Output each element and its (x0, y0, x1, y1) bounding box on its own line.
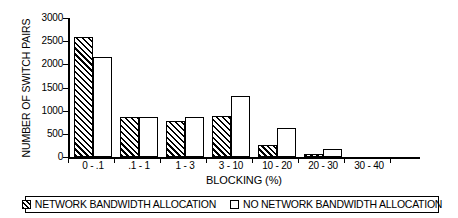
x-axis-tick-mark (206, 159, 207, 163)
y-axis-tick-label: 0 (58, 152, 63, 162)
bar-group (258, 18, 296, 157)
hatched-square-icon (22, 200, 31, 209)
bar (323, 149, 342, 157)
y-axis-tick-label: 2500 (42, 36, 63, 46)
bar-group (166, 18, 204, 157)
x-axis-title: BLOCKING (%) (68, 174, 420, 187)
x-axis-tick-mark (390, 159, 391, 163)
legend-label: NO NETWORK BANDWIDTH ALLOCATION (243, 199, 442, 210)
bar (120, 117, 139, 157)
y-axis-tick-mark (63, 18, 69, 19)
y-axis-tick-mark (63, 111, 69, 112)
bar (212, 116, 231, 157)
bar (139, 117, 158, 157)
y-axis-tick-label: 3000 (42, 13, 63, 23)
bar-group (304, 18, 342, 157)
y-axis-tick-mark (63, 88, 69, 89)
bar-chart-figure: NUMBER OF SWITCH PAIRS 05001000150020002… (0, 0, 458, 218)
x-axis-tick-mark (298, 159, 299, 163)
x-axis-tick-mark (68, 159, 69, 163)
x-axis-category-label: 10 - 20 (262, 160, 292, 171)
y-axis-title: NUMBER OF SWITCH PAIRS (18, 18, 34, 158)
y-axis-tick-label: 1000 (42, 106, 63, 116)
bar (231, 96, 250, 157)
legend-label: NETWORK BANDWIDTH ALLOCATION (35, 199, 216, 210)
x-axis-category-label: 20 - 30 (308, 160, 338, 171)
plot-area: 050010001500200025003000 (68, 18, 420, 158)
bar (93, 57, 112, 157)
x-axis-tick-mark (252, 159, 253, 163)
x-axis-category-label: 0 - .1 (82, 160, 104, 171)
y-axis-tick-label: 2000 (42, 59, 63, 69)
x-axis-tick-mark (160, 159, 161, 163)
chart-legend: NETWORK BANDWIDTH ALLOCATIONNO NETWORK B… (25, 196, 439, 213)
bar-group (74, 18, 112, 157)
y-axis-tick-mark (63, 64, 69, 65)
y-axis-tick-label: 1500 (42, 83, 63, 93)
bar-group (350, 18, 388, 157)
bar-group (212, 18, 250, 157)
bar (304, 154, 323, 157)
legend-entry: NO NETWORK BANDWIDTH ALLOCATION (230, 199, 442, 210)
bar (185, 117, 204, 157)
y-axis-tick-mark (63, 157, 69, 158)
x-axis-tick-mark (344, 159, 345, 163)
x-axis-line (68, 157, 420, 159)
y-axis-tick-mark (63, 134, 69, 135)
bar (74, 37, 93, 157)
x-axis-category-label: .1 - 1 (128, 160, 150, 171)
bar (166, 121, 185, 157)
x-axis-category-label: 1 - 3 (175, 160, 194, 171)
y-axis-tick-label: 500 (47, 129, 63, 139)
empty-square-icon (230, 200, 239, 209)
x-axis-tick-mark (114, 159, 115, 163)
y-axis-tick-mark (63, 41, 69, 42)
legend-entry: NETWORK BANDWIDTH ALLOCATION (22, 199, 216, 210)
bar (258, 145, 277, 157)
x-axis-category-label: 30 - 40 (354, 160, 384, 171)
bar-group (120, 18, 158, 157)
x-axis-category-label: 3 - 10 (219, 160, 243, 171)
bar (277, 128, 296, 157)
